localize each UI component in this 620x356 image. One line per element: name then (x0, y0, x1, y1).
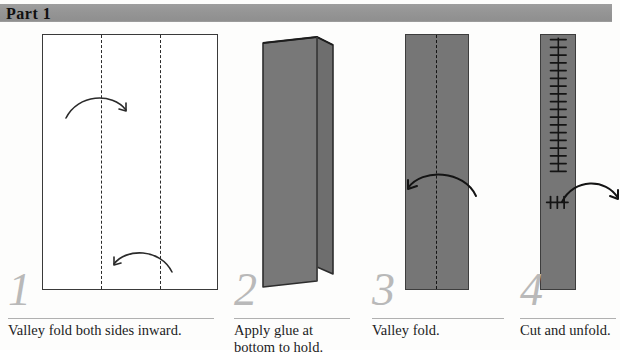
folded-booklet-shape (257, 31, 357, 289)
step-1-number: 1 (8, 268, 31, 318)
step-4-rule (520, 318, 616, 319)
step-2-caption-line-2: bottom to hold. (234, 339, 323, 356)
folded-strip (405, 34, 469, 290)
step-4: 4 Cut and unfold. (518, 26, 618, 346)
step-3: 3 Valley fold. (370, 26, 510, 346)
step-3-number: 3 (372, 268, 395, 318)
fold-arrow-right-icon (64, 88, 144, 128)
page-title: Part 1 (6, 5, 51, 22)
step-1-caption: Valley fold both sides inward. (8, 322, 182, 339)
center-fold-line (436, 35, 437, 289)
step-4-caption: Cut and unfold. (520, 322, 611, 339)
fold-arrow-left-icon (398, 166, 488, 210)
step-2-number: 2 (234, 268, 257, 318)
step-2-figure (232, 26, 362, 276)
step-2: 2 Apply glue at bottom to hold. (232, 26, 362, 346)
cut-strip (540, 34, 576, 290)
part-header-banner: Part 1 (0, 4, 612, 22)
step-3-number-row: 3 (370, 272, 510, 318)
step-1-number-row: 1 (6, 272, 218, 318)
step-1-figure (6, 26, 218, 276)
step-1: 1 Valley fold both sides inward. (6, 26, 218, 346)
step-4-figure (518, 26, 618, 276)
step-3-figure (370, 26, 510, 276)
step-3-caption: Valley fold. (372, 322, 440, 339)
unfold-arrow-right-icon (558, 176, 620, 220)
step-2-number-row: 2 (232, 272, 362, 318)
step-2-rule (234, 318, 350, 319)
step-4-number-row: 4 (518, 272, 618, 318)
step-4-number: 4 (520, 268, 543, 318)
fold-line-left (101, 35, 102, 289)
step-3-rule (372, 318, 504, 319)
step-1-rule (8, 318, 214, 319)
step-2-caption-line-1: Apply glue at (234, 322, 313, 339)
